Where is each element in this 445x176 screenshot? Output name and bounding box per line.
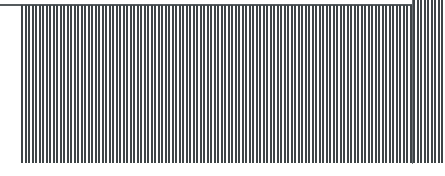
bar-track-main: [21, 5, 413, 163]
chart-canvas: [0, 0, 445, 176]
bar-chart-plot-area-right[interactable]: [413, 0, 445, 163]
bar[interactable]: [441, 0, 443, 163]
bar-track-right: [413, 0, 445, 163]
bar-chart-plot-area-main[interactable]: [21, 5, 413, 163]
